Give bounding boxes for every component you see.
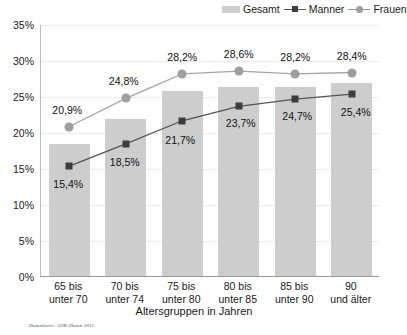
marker-frauen [347,68,356,77]
marker-manner [122,140,129,147]
marker-manner [348,91,355,98]
marker-manner [179,117,186,124]
x-axis-label-line: 75 bis [153,280,210,293]
data-label-manner: 25,4% [341,106,371,118]
x-axis-title: Altersgruppen in Jahren [0,305,388,317]
legend-item-manner: Manner [284,3,345,15]
x-axis-label-line: 80 bis [210,280,267,293]
x-axis-category-label: 90und älter [323,280,380,305]
data-label-manner: 21,7% [165,134,195,146]
data-label-manner: 24,7% [282,110,312,122]
marker-frauen [65,122,74,131]
x-axis-label-line: unter 70 [40,293,97,306]
line-series-overlay [41,25,380,277]
marker-frauen [234,67,243,76]
marker-frauen [178,69,187,78]
y-axis-tick-label: 15% [0,163,34,175]
y-axis-tick-label: 10% [0,199,34,211]
y-axis-tick-label: 25% [0,91,34,103]
legend-label-manner: Manner [309,3,345,15]
data-label-frauen: 28,6% [224,48,254,60]
data-label-frauen: 28,2% [167,51,197,63]
gridline [41,277,379,278]
legend-circle-line-icon [348,5,370,14]
x-axis-label-line: und älter [323,293,380,306]
x-axis-label-line: unter 80 [153,293,210,306]
y-axis-tick-label: 30% [0,55,34,67]
legend-bar-swatch-icon [222,6,240,13]
marker-manner [66,163,73,170]
legend-label-gesamt: Gesamt [243,3,280,15]
x-axis-label-line: 70 bis [97,280,154,293]
y-axis-tick-label: 20% [0,127,34,139]
y-axis-tick-label: 5% [0,235,34,247]
data-label-frauen: 28,4% [337,50,367,62]
marker-frauen [121,94,130,103]
x-axis-category-label: 85 bisunter 90 [266,280,323,305]
x-axis-label-line: 85 bis [266,280,323,293]
y-axis-tick-label: 0% [0,271,34,283]
data-label-frauen: 24,8% [109,75,139,87]
legend-square-line-icon [284,5,306,14]
legend-label-frauen: Frauen [373,3,406,15]
x-axis-category-label: 65 bisunter 70 [40,280,97,305]
data-label-manner: 18,5% [110,156,140,168]
y-axis-tick-label: 35% [0,19,34,31]
x-axis-label-line: unter 85 [210,293,267,306]
x-axis-label-line: 65 bis [40,280,97,293]
data-label-frauen: 20,9% [52,104,82,116]
legend-item-frauen: Frauen [348,3,406,15]
source-note: Datenbasis: AOK-Daten 2011 [29,323,94,328]
data-label-frauen: 28,2% [280,51,310,63]
plot-area: 15,4%18,5%21,7%23,7%24,7%25,4%20,9%24,8%… [40,25,379,277]
marker-manner [235,103,242,110]
marker-frauen [291,69,300,78]
x-axis-category-label: 80 bisunter 85 [210,280,267,305]
legend-item-gesamt: Gesamt [222,3,280,15]
x-axis-category-label: 70 bisunter 74 [97,280,154,305]
data-label-manner: 23,7% [226,117,256,129]
marker-manner [292,96,299,103]
x-axis-category-label: 75 bisunter 80 [153,280,210,305]
x-axis-label-line: unter 74 [97,293,154,306]
chart-legend: Gesamt Manner Frauen [222,2,407,16]
x-axis-label-line: 90 [323,280,380,293]
x-axis-label-line: unter 90 [266,293,323,306]
data-label-manner: 15,4% [53,178,83,190]
